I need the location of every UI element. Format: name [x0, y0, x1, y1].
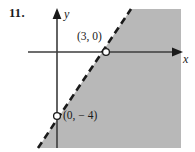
- point-marker-3-0: [103, 49, 110, 56]
- point-marker-0-neg4: [54, 113, 61, 120]
- problem-number-label: 11.: [9, 7, 25, 20]
- shaded-region: [38, 9, 181, 148]
- graph-canvas: [0, 0, 195, 152]
- point-label-0-neg4: (0, − 4): [63, 110, 97, 122]
- inequality-graph-figure: 11. y x (3, 0) (0, − 4): [0, 0, 195, 152]
- point-label-3-0: (3, 0): [77, 31, 102, 43]
- x-axis-label: x: [183, 53, 188, 65]
- y-axis-label: y: [64, 8, 69, 20]
